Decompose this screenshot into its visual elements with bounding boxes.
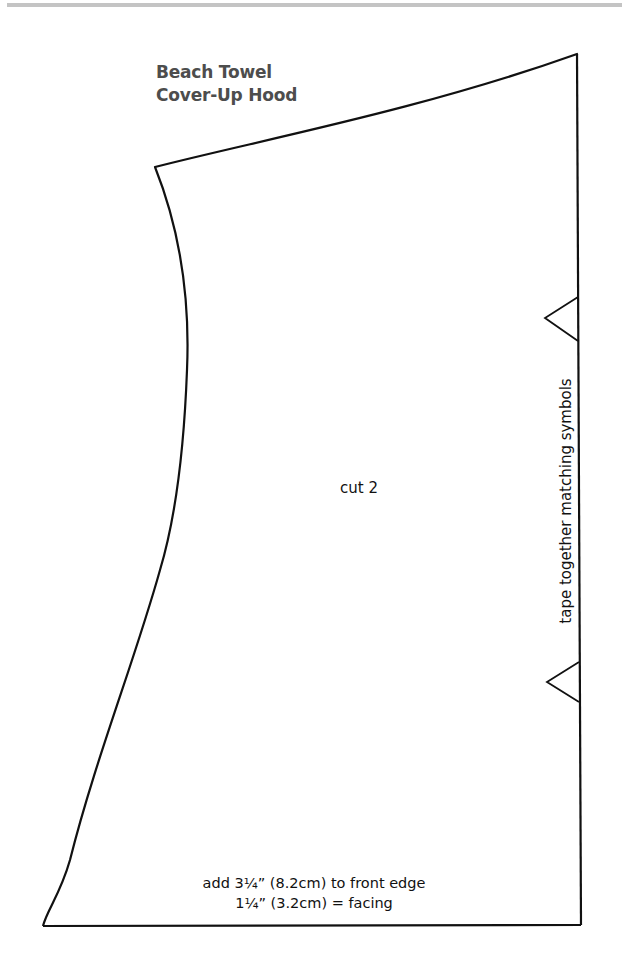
right-edge — [577, 54, 581, 925]
side-note: tape together matching symbols — [557, 378, 575, 623]
bottom-note-line-2: 1¼” (3.2cm) = facing — [0, 893, 628, 913]
cut-instruction: cut 2 — [340, 479, 378, 497]
bottom-edge — [43, 925, 581, 926]
bottom-note-line-1: add 3¼” (8.2cm) to front edge — [0, 873, 628, 893]
title-line-1: Beach Towel — [156, 61, 297, 84]
lower-triangle-icon — [547, 662, 579, 702]
left-curve-edge — [43, 167, 188, 926]
pattern-title: Beach Towel Cover-Up Hood — [156, 61, 297, 107]
title-line-2: Cover-Up Hood — [156, 84, 297, 107]
upper-triangle-icon — [545, 297, 578, 341]
pattern-piece-outline — [0, 0, 628, 964]
seam-allowance-note: add 3¼” (8.2cm) to front edge 1¼” (3.2cm… — [0, 873, 628, 913]
